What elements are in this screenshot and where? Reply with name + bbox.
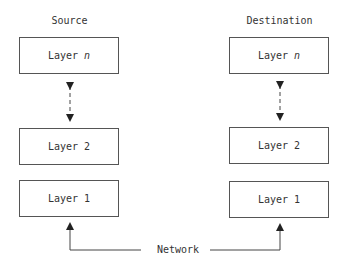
protocol-layer-diagram: Source Layern Layer 2 Layer 1 Destinatio… xyxy=(0,0,345,268)
destination-title: Destination xyxy=(229,15,330,27)
network-to-source-line xyxy=(70,226,141,250)
destination-layer-2-box: Layer 2 xyxy=(229,127,329,164)
destination-layer-n-box: Layern xyxy=(229,37,329,74)
source-title: Source xyxy=(19,15,120,27)
destination-layer-n-label: Layer xyxy=(258,50,288,61)
source-layer-2-label: Layer 2 xyxy=(48,141,90,152)
destination-layer-1-label: Layer 1 xyxy=(258,194,300,205)
network-label: Network xyxy=(145,244,211,256)
source-layer-n-suffix: n xyxy=(84,50,90,61)
source-layer-2-box: Layer 2 xyxy=(19,128,119,165)
source-layer-1-box: Layer 1 xyxy=(19,180,119,217)
destination-layer-n-suffix: n xyxy=(294,50,300,61)
source-layer-n-box: Layern xyxy=(19,37,119,74)
source-layer-n-label: Layer xyxy=(48,50,78,61)
source-layer-1-label: Layer 1 xyxy=(48,193,90,204)
destination-layer-2-label: Layer 2 xyxy=(258,140,300,151)
destination-layer-1-box: Layer 1 xyxy=(229,181,329,218)
network-to-destination-line xyxy=(210,227,280,250)
